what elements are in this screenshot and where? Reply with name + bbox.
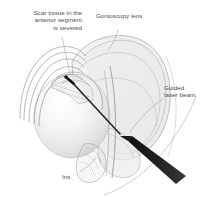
label-iris: Iris bbox=[62, 173, 88, 180]
laser-target-point bbox=[64, 75, 68, 79]
gonioscopy-laser-diagram: Scar tissue in the anterior segment is s… bbox=[0, 0, 212, 197]
leader-scar-tissue bbox=[62, 37, 70, 74]
label-gonioscopy-lens: Gonioscopy lens bbox=[96, 12, 166, 19]
label-scar-tissue: Scar tissue in the anterior segment is s… bbox=[6, 9, 82, 31]
label-guided-laser-beam: Guided laser beam bbox=[164, 84, 210, 99]
